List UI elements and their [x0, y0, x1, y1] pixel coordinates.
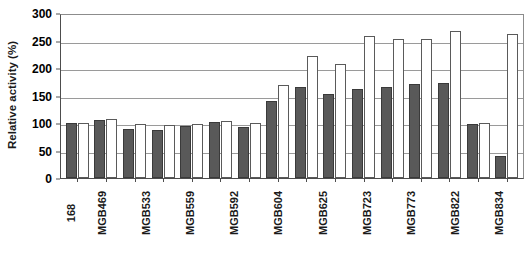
y-tick-label: 250 [32, 36, 52, 48]
x-label-cell: MGB834 [477, 181, 521, 261]
x-label-cell: MGB604 [256, 181, 300, 261]
bar-group [178, 15, 207, 178]
x-axis-tick-labels: 168MGB469MGB533MGB559MGB592MGB604MGB625M… [60, 181, 524, 261]
bar-dark [152, 130, 163, 178]
bar-dark [295, 87, 306, 178]
bar-light [106, 119, 117, 178]
bar-group [235, 15, 264, 178]
x-tick-label: 168 [65, 204, 77, 222]
bar-dark [352, 89, 363, 178]
bar-groups [61, 15, 523, 178]
bar-light [221, 121, 232, 178]
x-label-cell: MGB822 [433, 181, 477, 261]
x-label-cell: MGB860 [521, 181, 530, 261]
bar-dark [66, 123, 77, 178]
bar-dark [409, 84, 420, 178]
bar-group [378, 15, 407, 178]
bar-dark [495, 156, 506, 178]
bar-light [364, 36, 375, 178]
x-label-cell: MGB533 [124, 181, 168, 261]
x-tick-label: MGB822 [449, 191, 461, 235]
x-label-cell: MGB469 [80, 181, 124, 261]
bar-light [393, 39, 404, 178]
y-tick-label: 50 [39, 146, 52, 158]
bar-group [149, 15, 178, 178]
x-label-cell: MGB723 [345, 181, 389, 261]
plot-area [60, 14, 524, 179]
bar-group [321, 15, 350, 178]
bar-dark [323, 94, 334, 178]
x-label-cell: MGB559 [168, 181, 212, 261]
bar-light [507, 34, 518, 178]
bar-light [421, 39, 432, 178]
bar-group [349, 15, 378, 178]
bar-dark [238, 127, 249, 178]
bar-light [450, 31, 461, 178]
bar-dark [94, 120, 105, 178]
x-tick-label: MGB604 [273, 191, 285, 235]
y-tick-label: 150 [32, 91, 52, 103]
bar-dark [209, 122, 220, 178]
x-tick-label: MGB533 [140, 191, 152, 235]
bar-light [278, 85, 289, 179]
bar-dark [381, 87, 392, 178]
bar-dark [123, 129, 134, 178]
x-tick-label: MGB469 [96, 191, 108, 235]
bar-light [307, 56, 318, 178]
bar-light [192, 124, 203, 178]
bar-light [250, 123, 261, 178]
x-tick-label: MGB592 [228, 191, 240, 235]
bar-group [492, 15, 521, 178]
x-label-cell: MGB773 [389, 181, 433, 261]
y-tick-label: 100 [32, 118, 52, 130]
bar-chart-figure: Relative activity (%) 050100150200250300… [0, 0, 530, 263]
bar-light [135, 124, 146, 178]
bar-group [120, 15, 149, 178]
bar-light [78, 123, 89, 178]
bar-group [263, 15, 292, 178]
x-tick-label: MGB773 [405, 191, 417, 235]
x-tick-label: MGB834 [493, 191, 505, 235]
bar-light [335, 64, 346, 178]
bar-dark [180, 126, 191, 178]
y-axis-title: Relative activity (%) [6, 41, 18, 149]
bar-group [92, 15, 121, 178]
bar-group [206, 15, 235, 178]
bar-group [63, 15, 92, 178]
bar-dark [467, 124, 478, 178]
bar-light [164, 125, 175, 178]
x-tick-label: MGB625 [317, 191, 329, 235]
x-label-cell: MGB592 [212, 181, 256, 261]
bar-group [407, 15, 436, 178]
bar-light [479, 123, 490, 178]
bar-dark [438, 83, 449, 178]
bar-group [464, 15, 493, 178]
x-label-cell: MGB625 [301, 181, 345, 261]
y-tick-label: 200 [32, 63, 52, 75]
y-tick-label: 300 [32, 8, 52, 20]
bar-group [292, 15, 321, 178]
bar-group [435, 15, 464, 178]
x-tick-label: MGB559 [184, 191, 196, 235]
y-tick-label: 0 [45, 173, 52, 185]
x-tick-label: MGB723 [361, 191, 373, 235]
bar-dark [266, 101, 277, 178]
x-label-cell: 168 [62, 181, 80, 261]
y-axis-tick-labels: 050100150200250300 [20, 14, 56, 179]
